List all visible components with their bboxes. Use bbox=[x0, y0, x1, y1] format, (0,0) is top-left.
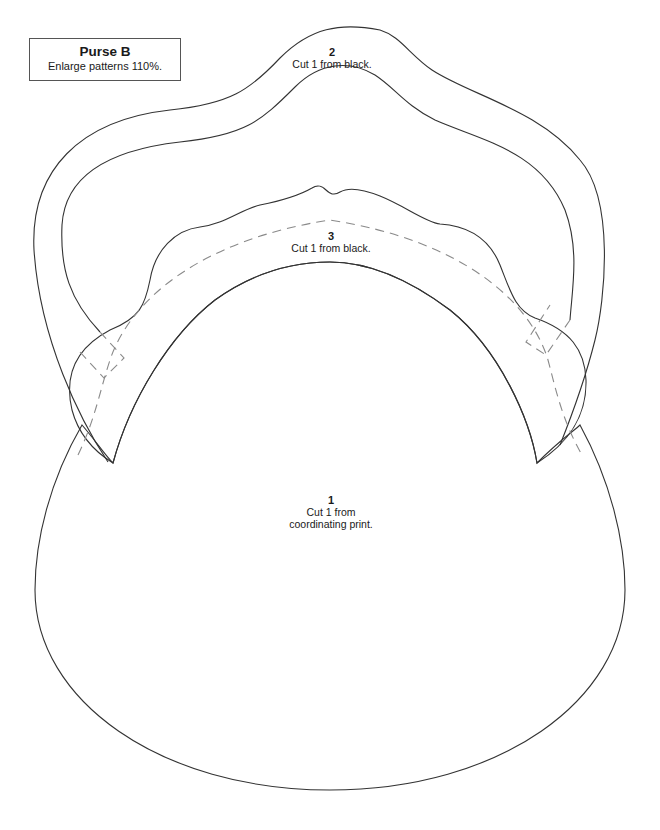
piece-2-instruction: Cut 1 from black. bbox=[292, 58, 371, 70]
piece-3-band-outline bbox=[70, 186, 586, 463]
piece-2-handle-inner-outline bbox=[62, 66, 574, 332]
piece-3-placement-line bbox=[78, 220, 582, 455]
pattern-diagram bbox=[0, 0, 660, 830]
piece-1-label: 1 Cut 1 from coordinating print. bbox=[289, 494, 372, 530]
piece-1-number: 1 bbox=[289, 494, 372, 506]
piece-3-number: 3 bbox=[291, 230, 370, 242]
piece-1-instruction-line1: Cut 1 from bbox=[289, 506, 372, 518]
handle-right-tab-placement bbox=[526, 305, 570, 355]
piece-3-instruction: Cut 1 from black. bbox=[291, 242, 370, 254]
pattern-title: Purse B bbox=[30, 44, 180, 59]
pattern-title-box: Purse B Enlarge patterns 110%. bbox=[29, 38, 181, 81]
piece-2-label: 2 Cut 1 from black. bbox=[292, 46, 371, 70]
piece-2-number: 2 bbox=[292, 46, 371, 58]
piece-3-label: 3 Cut 1 from black. bbox=[291, 230, 370, 254]
pattern-enlarge-note: Enlarge patterns 110%. bbox=[30, 59, 180, 73]
handle-left-tab-placement bbox=[80, 332, 124, 378]
piece-1-instruction-line2: coordinating print. bbox=[289, 518, 372, 530]
